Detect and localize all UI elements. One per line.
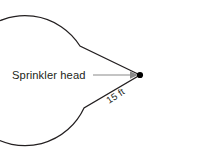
sprinkler-sector-diagram: Sprinkler head 15 ft — [0, 0, 206, 147]
sprinkler-head-label: Sprinkler head — [12, 69, 86, 81]
sprinkler-head-point-icon — [137, 72, 143, 78]
